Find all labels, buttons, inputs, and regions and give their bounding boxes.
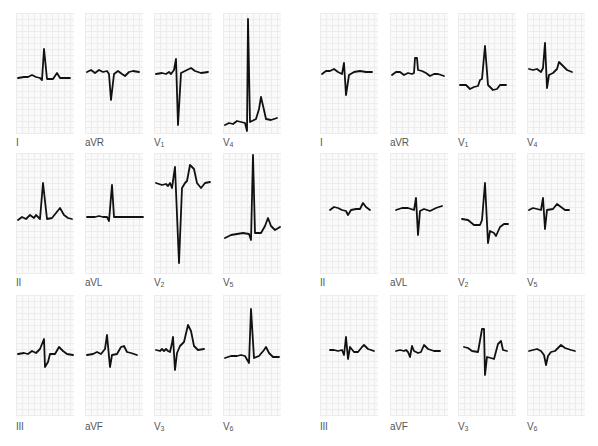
ecg-trace: [458, 295, 516, 416]
ecg-trace: [223, 13, 281, 134]
ecg-trace: [320, 13, 378, 134]
ecg-trace: [85, 153, 143, 274]
ecg-left-lead-V1: [154, 13, 212, 134]
ecg-trace: [527, 13, 585, 134]
ecg-left-lead-V4: [223, 13, 281, 134]
lead-label: II: [320, 277, 325, 288]
ecg-right-lead-I: [320, 13, 378, 134]
ecg-trace: [390, 295, 448, 416]
ecg-trace: [154, 13, 212, 134]
ecg-left-lead-V6: [223, 295, 281, 416]
ecg-trace: [390, 13, 448, 134]
ecg-left-lead-aVR: [85, 13, 143, 134]
lead-label: V3: [154, 421, 164, 432]
lead-label: V5: [527, 277, 537, 288]
ecg-trace: [16, 13, 74, 134]
ecg-trace: [16, 295, 74, 416]
lead-label: aVL: [390, 277, 407, 288]
lead-label: V6: [527, 421, 537, 432]
ecg-trace: [527, 153, 585, 274]
ecg-right-lead-aVL: [390, 153, 448, 274]
ecg-trace: [16, 153, 74, 274]
ecg-right-lead-V6: [527, 295, 585, 416]
lead-label: V1: [154, 137, 164, 148]
lead-label: V2: [458, 277, 468, 288]
ecg-trace: [85, 13, 143, 134]
ecg-trace: [527, 295, 585, 416]
ecg-right-lead-V4: [527, 13, 585, 134]
ecg-right-lead-III: [320, 295, 378, 416]
ecg-right-lead-V5: [527, 153, 585, 274]
lead-label: aVL: [85, 277, 102, 288]
ecg-trace: [154, 153, 212, 274]
lead-label: aVR: [85, 137, 104, 148]
ecg-trace: [320, 295, 378, 416]
lead-label: III: [16, 421, 23, 432]
ecg-trace: [223, 295, 281, 416]
lead-label: V6: [223, 421, 233, 432]
ecg-right-lead-aVR: [390, 13, 448, 134]
ecg-right-lead-II: [320, 153, 378, 274]
ecg-left-lead-V3: [154, 295, 212, 416]
lead-label: II: [16, 277, 21, 288]
ecg-right-lead-V2: [458, 153, 516, 274]
lead-label: V5: [223, 277, 233, 288]
ecg-right-lead-aVF: [390, 295, 448, 416]
ecg-left-lead-V2: [154, 153, 212, 274]
ecg-trace: [85, 295, 143, 416]
ecg-left-lead-III: [16, 295, 74, 416]
ecg-right-lead-V1: [458, 13, 516, 134]
ecg-trace: [223, 153, 281, 274]
lead-label: I: [320, 137, 322, 148]
ecg-right-lead-V3: [458, 295, 516, 416]
lead-label: aVF: [390, 421, 407, 432]
ecg-left-lead-I: [16, 13, 74, 134]
ecg-left-lead-aVL: [85, 153, 143, 274]
ecg-trace: [458, 13, 516, 134]
ecg-trace: [320, 153, 378, 274]
lead-label: V3: [458, 421, 468, 432]
lead-label: aVR: [390, 137, 409, 148]
lead-label: V4: [527, 137, 537, 148]
ecg-trace: [154, 295, 212, 416]
ecg-left-lead-V5: [223, 153, 281, 274]
lead-label: V1: [458, 137, 468, 148]
ecg-left-lead-II: [16, 153, 74, 274]
lead-label: III: [320, 421, 327, 432]
ecg-left-lead-aVF: [85, 295, 143, 416]
lead-label: V4: [223, 137, 233, 148]
ecg-trace: [458, 153, 516, 274]
ecg-trace: [390, 153, 448, 274]
lead-label: I: [16, 137, 18, 148]
lead-label: V2: [154, 277, 164, 288]
lead-label: aVF: [85, 421, 102, 432]
